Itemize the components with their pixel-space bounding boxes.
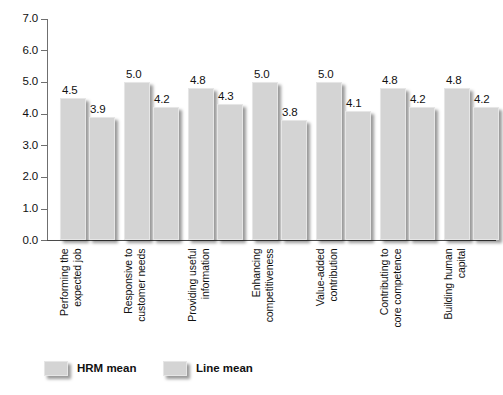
category-label-line: Value-added — [314, 248, 327, 352]
bar-hrm-mean[interactable] — [316, 82, 342, 240]
legend-swatch-line-mean — [163, 361, 187, 376]
legend-label-line-mean: Line mean — [196, 361, 253, 376]
category-label-line: competitiveness — [263, 248, 276, 352]
legend-label-hrm-mean: HRM mean — [77, 361, 136, 376]
bar-value-label-line-mean: 4.2 — [154, 93, 169, 105]
bar-value-label-hrm-mean: 4.5 — [62, 84, 77, 96]
category-label: Contributing tocore competence — [376, 248, 432, 352]
bar-hrm-mean[interactable] — [252, 82, 278, 240]
bar-value-label-line-mean: 4.1 — [346, 97, 361, 109]
y-tick-label-7: 7.0 — [2, 13, 38, 24]
bar-value-label-line-mean: 4.2 — [474, 93, 489, 105]
bar-hrm-mean[interactable] — [188, 88, 214, 240]
category-label-line: capital — [455, 248, 468, 352]
bar-hrm-mean[interactable] — [60, 98, 86, 240]
category-label: Providing usefulinformation — [184, 248, 240, 352]
y-tick-label-2: 2.0 — [2, 171, 38, 182]
bar-line-mean[interactable] — [473, 107, 499, 240]
y-tick-label-6: 6.0 — [2, 45, 38, 56]
category-label-line: core competence — [391, 248, 404, 352]
category-label: Performing theexpected job — [56, 248, 112, 352]
bar-chart: 7.0 6.0 5.0 4.0 3.0 2.0 1.0 0.0 4.53.95.… — [0, 0, 503, 395]
category-label: Value-addedcontribution — [312, 248, 368, 352]
y-tick-label-3: 3.0 — [2, 140, 38, 151]
bar-value-label-hrm-mean: 5.0 — [318, 68, 333, 80]
legend-swatch-hrm-mean — [44, 361, 68, 376]
category-label-line: Performing the — [58, 248, 71, 352]
category-label-line: Responsive to — [122, 248, 135, 352]
category-label: Responsive tocustomer needs — [120, 248, 176, 352]
bar-line-mean[interactable] — [89, 117, 115, 240]
y-tick-label-1: 1.0 — [2, 203, 38, 214]
y-tick-label-5: 5.0 — [2, 76, 38, 87]
category-label-line: Building human — [442, 248, 455, 352]
bar-value-label-hrm-mean: 4.8 — [446, 74, 461, 86]
bar-value-label-hrm-mean: 4.8 — [190, 74, 205, 86]
bar-value-label-line-mean: 3.8 — [282, 106, 297, 118]
bar-line-mean[interactable] — [281, 120, 307, 240]
bar-value-label-hrm-mean: 5.0 — [254, 68, 269, 80]
category-label-line: Contributing to — [378, 248, 391, 352]
category-label-line: expected job — [71, 248, 84, 352]
x-axis-baseline — [47, 240, 496, 241]
category-label-line: customer needs — [135, 248, 148, 352]
y-tick-label-0: 0.0 — [2, 235, 38, 246]
category-label-line: information — [199, 248, 212, 352]
category-label-line: contribution — [327, 248, 340, 352]
bar-line-mean[interactable] — [409, 107, 435, 240]
bar-value-label-line-mean: 4.3 — [218, 90, 233, 102]
bar-value-label-line-mean: 4.2 — [410, 93, 425, 105]
category-label-line: Enhancing — [250, 248, 263, 352]
bar-line-mean[interactable] — [153, 107, 179, 240]
bar-value-label-hrm-mean: 4.8 — [382, 74, 397, 86]
bar-line-mean[interactable] — [217, 104, 243, 240]
category-label: Building humancapital — [440, 248, 496, 352]
bar-hrm-mean[interactable] — [380, 88, 406, 240]
category-label-line: Providing useful — [186, 248, 199, 352]
bar-hrm-mean[interactable] — [124, 82, 150, 240]
bar-value-label-hrm-mean: 5.0 — [126, 68, 141, 80]
y-tick-label-4: 4.0 — [2, 108, 38, 119]
plot-area: 4.53.95.04.24.84.35.03.85.04.14.84.24.84… — [47, 19, 496, 240]
bar-value-label-line-mean: 3.9 — [90, 103, 105, 115]
bar-line-mean[interactable] — [345, 111, 371, 240]
bar-hrm-mean[interactable] — [444, 88, 470, 240]
category-label: Enhancingcompetitiveness — [248, 248, 304, 352]
